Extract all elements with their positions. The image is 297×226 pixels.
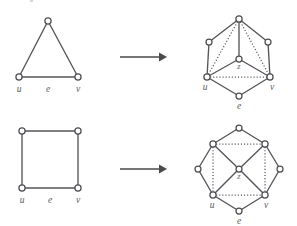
hex-node-top [236, 16, 242, 22]
hex-node-upper-left [206, 39, 212, 45]
hex-label-u: u [203, 82, 208, 92]
maps-to-arrow-row2 [115, 113, 175, 226]
hexagon-graph: z u v e [185, 0, 297, 113]
oct-edge-topright-right [265, 144, 280, 169]
triangle-edge-apex-v [48, 21, 78, 77]
arrow-head [159, 165, 167, 174]
hex-edge-top-upperright [239, 19, 268, 42]
oct-edge-u-bottom [213, 195, 239, 211]
triangle-node-u [16, 74, 22, 80]
oct-edge-top-topleft [213, 128, 239, 144]
triangle-graph: u e v [0, 0, 120, 113]
oct-node-right [277, 166, 283, 172]
triangle-node-apex [45, 18, 51, 24]
oct-edge-z-topright [239, 144, 265, 169]
octagon-graph: z u v e [185, 113, 297, 226]
oct-edge-topleft-left [198, 144, 213, 169]
oct-edge-top-topright [239, 128, 265, 144]
hex-edge-u-bottom [207, 77, 239, 96]
hex-edge-z-v [239, 59, 270, 77]
oct-node-bottom [236, 208, 242, 214]
triangle-label-v: v [76, 84, 81, 94]
hex-edge-upperleft-u [207, 42, 209, 77]
hex-label-v: v [270, 82, 275, 92]
hex-node-v [267, 74, 273, 80]
oct-label-z: z [236, 171, 241, 181]
oct-label-u: u [210, 200, 215, 210]
hex-node-bottom [236, 93, 242, 99]
oct-edge-right-v [265, 169, 280, 195]
triangle-label-e: e [46, 84, 50, 94]
square-label-v: v [76, 195, 81, 205]
arrow-head [159, 53, 167, 62]
oct-node-top [236, 125, 242, 131]
hex-node-u [204, 74, 210, 80]
hex-node-upper-right [265, 39, 271, 45]
oct-edge-v-bottom [239, 195, 265, 211]
hex-edge-v-bottom [239, 77, 270, 96]
oct-node-v [262, 192, 268, 198]
square-node-v [75, 185, 81, 191]
oct-edge-z-v [239, 169, 265, 195]
oct-node-top-right [262, 141, 268, 147]
hex-label-z: z [236, 61, 241, 71]
square-label-e: e [48, 195, 52, 205]
row-triangle-to-hexagon: u e v [0, 0, 297, 113]
square-node-top-right [75, 128, 81, 134]
square-graph: u e v [0, 113, 120, 226]
oct-node-top-left [210, 141, 216, 147]
square-label-u: u [20, 195, 25, 205]
oct-edge-z-u [213, 169, 239, 195]
row-square-to-octagon: u e v [0, 113, 297, 226]
oct-label-v: v [264, 200, 269, 210]
square-node-u [19, 185, 25, 191]
oct-node-left [195, 166, 201, 172]
maps-to-arrow-row1 [115, 0, 175, 113]
hex-edge-top-upperleft [209, 19, 239, 42]
triangle-edge-apex-u [19, 21, 48, 77]
oct-node-u [210, 192, 216, 198]
graph-transformation-figure: u e v [0, 0, 297, 226]
oct-edge-z-topleft [213, 144, 239, 169]
triangle-label-u: u [17, 84, 22, 94]
hex-edge-upperright-v [268, 42, 270, 77]
oct-edge-left-u [198, 169, 213, 195]
triangle-node-v [75, 74, 81, 80]
hex-label-e: e [237, 101, 241, 111]
square-node-top-left [19, 128, 25, 134]
oct-label-e: e [237, 216, 241, 226]
